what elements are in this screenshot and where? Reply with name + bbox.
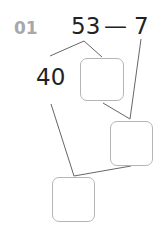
problem-number: 01 xyxy=(14,20,38,37)
answer-box-2[interactable] xyxy=(110,121,153,166)
minus-operator: — xyxy=(104,15,127,38)
line-box2-to-box3 xyxy=(74,166,131,176)
line-40-to-box3 xyxy=(51,104,74,176)
minuend: 53 xyxy=(71,15,100,38)
answer-box-1[interactable] xyxy=(80,58,124,101)
line-53-to-40 xyxy=(50,41,84,56)
line-7-to-box2 xyxy=(130,39,141,119)
line-53-to-box1 xyxy=(84,41,102,57)
subtrahend: 7 xyxy=(134,15,149,38)
answer-box-3[interactable] xyxy=(52,177,95,222)
line-box1-to-box2 xyxy=(103,103,130,119)
decomposed-part: 40 xyxy=(36,66,65,89)
